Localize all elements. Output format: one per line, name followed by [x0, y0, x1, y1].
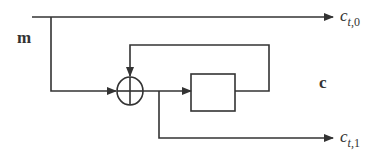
- edge-feedback: [130, 45, 269, 91]
- edge-m-to-xor: [51, 17, 116, 91]
- label-m: m: [17, 28, 31, 48]
- edge-to-ct1: [159, 91, 333, 138]
- label-ct1-base: c: [340, 127, 348, 146]
- xor-adder-icon: [117, 77, 143, 105]
- diagram-canvas: [0, 0, 388, 160]
- label-ct0: ct,0: [340, 6, 360, 30]
- label-c-text: c: [319, 73, 327, 92]
- register-box: [191, 74, 235, 111]
- label-c: c: [319, 73, 327, 93]
- label-ct1-sub-idx: ,1: [351, 136, 360, 150]
- label-ct0-base: c: [340, 6, 348, 25]
- label-ct0-sub-idx: ,0: [351, 15, 360, 29]
- label-m-text: m: [17, 28, 31, 47]
- label-ct1: ct,1: [340, 127, 360, 151]
